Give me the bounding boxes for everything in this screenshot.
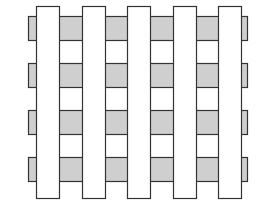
vertical-strip-5 — [219, 7, 242, 199]
vertical-strip-2 — [83, 7, 106, 199]
vertical-strip-4 — [174, 7, 197, 199]
weave-diagram — [0, 0, 265, 218]
vertical-strip-3 — [128, 7, 151, 199]
vertical-strip-1 — [37, 7, 60, 199]
